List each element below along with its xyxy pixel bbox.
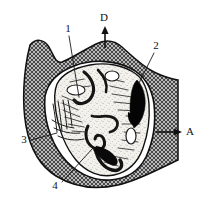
label-4: 4 xyxy=(52,179,58,191)
figure-container: 1 2 3 4 A D xyxy=(0,0,208,205)
label-2: 2 xyxy=(153,39,159,51)
anatomical-diagram: 1 2 3 4 A D xyxy=(0,0,208,205)
label-3: 3 xyxy=(21,133,27,145)
label-d: D xyxy=(100,11,108,23)
label-1: 1 xyxy=(65,22,71,34)
vacuole-left xyxy=(67,85,85,95)
arrow-d-head xyxy=(101,26,108,34)
vacuole-top xyxy=(105,71,119,81)
vacuole-right xyxy=(126,128,136,144)
label-a: A xyxy=(186,125,194,137)
